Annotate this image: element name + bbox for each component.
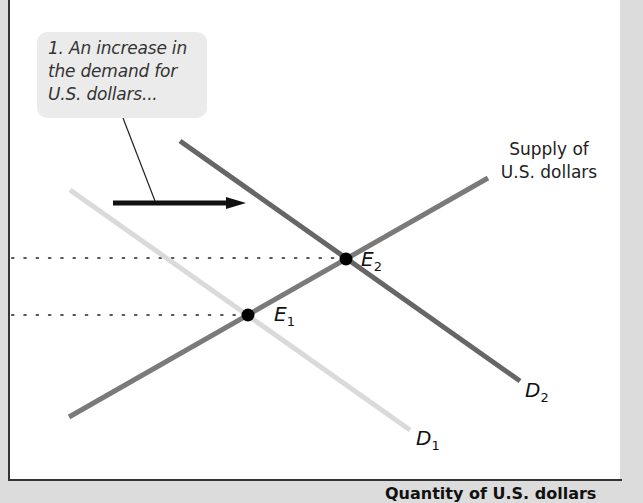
x-axis-label: Quantity of U.S. dollars: [385, 484, 596, 503]
supply-label-line-2: U.S. dollars: [490, 161, 608, 184]
callout-pointer: [123, 118, 155, 201]
supply-label-line-1: Supply of: [490, 138, 608, 161]
equilibrium-point-e2: [340, 253, 353, 266]
e2-label: E2: [361, 247, 382, 274]
supply-curve: [69, 178, 488, 417]
callout-line-1: 1. An increase in: [48, 37, 207, 60]
e1-label: E1: [274, 302, 295, 329]
demand-curve-d1: [70, 190, 410, 430]
shift-arrow-icon: [226, 197, 246, 209]
d1-label: D1: [416, 426, 440, 453]
callout-line-2: the demand for: [48, 60, 207, 83]
callout-line-3: U.S. dollars...: [48, 83, 207, 106]
supply-curve-label: Supply of U.S. dollars: [490, 138, 608, 184]
equilibrium-point-e1: [242, 309, 255, 322]
annotation-callout: 1. An increase in the demand for U.S. do…: [37, 32, 207, 118]
d2-label: D2: [525, 378, 549, 405]
